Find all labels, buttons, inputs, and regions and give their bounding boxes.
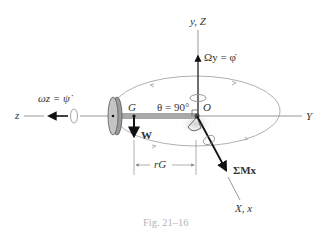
center-of-mass-label: G: [128, 101, 136, 113]
orbit-direction-arrow-icon: [232, 81, 236, 85]
gyroscope-diagram: Y z ωz = ψ̇ y, Z Ωy = φ̇ G W θ = 90° O Σ…: [0, 0, 330, 231]
Y-axis-label: Y: [306, 110, 314, 122]
gyro-rod: [118, 114, 196, 119]
orbit-direction-arrow-icon: [150, 84, 154, 87]
figure-caption: Fig. 21–16: [143, 217, 189, 228]
moment-label: ΣMx: [233, 164, 257, 176]
origin-label: O: [203, 101, 211, 113]
angle-label: θ = 90°: [157, 101, 189, 113]
orbit-direction-arrow-icon: [244, 137, 248, 140]
disk-center-dot: [112, 115, 115, 118]
spin-rotation-icon: [71, 109, 78, 123]
weight-label: W: [141, 129, 152, 141]
radius-label: rG: [154, 158, 166, 170]
X-axis-label: X, x: [234, 202, 252, 214]
orbit-direction-arrow-icon: [152, 145, 156, 148]
precession-rate-label: Ωy = φ̇: [204, 51, 237, 63]
spin-rate-label: ωz = ψ̇: [38, 92, 74, 104]
X-axis: [228, 177, 240, 200]
z-axis-label: z: [14, 109, 20, 121]
vertical-axis-label: y, Z: [189, 15, 207, 27]
